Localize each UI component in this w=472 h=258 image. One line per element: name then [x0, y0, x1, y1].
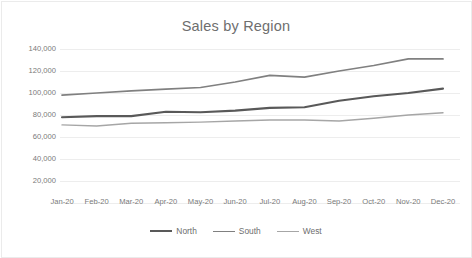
legend-item-west[interactable]: West: [277, 226, 322, 236]
x-axis-tick-label: Mar-20: [119, 197, 143, 206]
x-axis-tick-label: Jul-20: [259, 197, 280, 206]
chart-legend: NorthSouthWest: [0, 226, 472, 236]
x-axis-tick-label: Nov-20: [396, 197, 420, 206]
x-axis-tick-label: Sep-20: [327, 197, 352, 206]
x-axis: Jan-20Feb-20Mar-20Apr-20May-20Jun-20Jul-…: [0, 0, 472, 258]
x-axis-tick-label: May-20: [188, 197, 213, 206]
x-axis-tick-label: Feb-20: [85, 197, 109, 206]
x-axis-tick-label: Jan-20: [50, 197, 73, 206]
x-axis-tick-label: Oct-20: [362, 197, 385, 206]
legend-swatch-west-icon: [277, 231, 299, 232]
legend-swatch-north-icon: [150, 230, 172, 232]
legend-label: South: [239, 226, 261, 236]
legend-item-south[interactable]: South: [213, 226, 261, 236]
chart-container: Sales by Region 140,000120,000100,00080,…: [0, 0, 472, 258]
legend-item-north[interactable]: North: [150, 226, 196, 236]
x-axis-tick-label: Apr-20: [155, 197, 178, 206]
x-axis-tick-label: Dec-20: [431, 197, 455, 206]
legend-label: North: [176, 226, 196, 236]
legend-label: West: [303, 226, 322, 236]
legend-swatch-south-icon: [213, 231, 235, 232]
x-axis-tick-label: Aug-20: [292, 197, 317, 206]
x-axis-tick-label: Jun-20: [224, 197, 247, 206]
